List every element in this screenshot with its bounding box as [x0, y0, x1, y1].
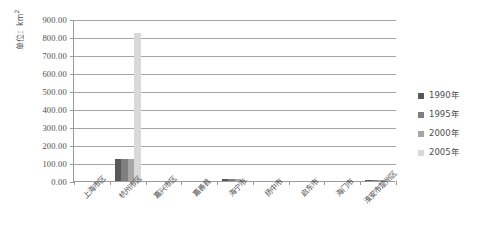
y-axis-title: 单位：km2: [12, 10, 25, 50]
bar-group: [146, 20, 182, 181]
plot-area: 900.00800.00700.00600.00500.00400.00300.…: [73, 20, 395, 182]
legend-item[interactable]: 2000年: [418, 124, 494, 143]
chart-category: 上海市区: [74, 20, 110, 181]
x-axis-tick: [181, 181, 182, 185]
chart-category: 嘉善县: [181, 20, 217, 181]
bar-group: [360, 20, 396, 181]
y-axis-tick-label: 200.00: [42, 142, 67, 151]
x-axis-tick: [396, 181, 397, 185]
y-axis-tick-label: 100.00: [42, 160, 67, 169]
chart-category: 杭州市区: [110, 20, 146, 181]
legend-swatch-icon: [418, 93, 424, 99]
x-axis-tick: [289, 181, 290, 185]
bar: [134, 33, 141, 182]
chart-category: 启东市: [289, 20, 325, 181]
chart-category: 海门市: [324, 20, 360, 181]
y-axis-tick-label: 700.00: [42, 52, 67, 61]
bar-group: [289, 20, 325, 181]
legend-item[interactable]: 2005年: [418, 143, 494, 162]
x-axis-tick: [146, 181, 147, 185]
chart-category: 淮安市楚州区: [360, 20, 396, 181]
legend-swatch-icon: [418, 131, 424, 137]
x-axis-tick: [324, 181, 325, 185]
y-axis-tick-label: 0.00: [51, 178, 67, 187]
bar-group: [181, 20, 217, 181]
bar-group: [217, 20, 253, 181]
legend-item[interactable]: 1995年: [418, 105, 494, 124]
chart-category: 扬中市: [253, 20, 289, 181]
legend-label: 1995年: [429, 110, 460, 119]
x-axis-tick: [74, 181, 75, 185]
x-axis-tick: [110, 181, 111, 185]
bar-group: [324, 20, 360, 181]
y-axis-tick-label: 400.00: [42, 106, 67, 115]
bar-group: [253, 20, 289, 181]
bar-chart: 单位：km2 900.00800.00700.00600.00500.00400…: [0, 0, 498, 242]
chart-category: 海宁市: [217, 20, 253, 181]
legend-swatch-icon: [418, 112, 424, 118]
x-axis-tick: [217, 181, 218, 185]
y-axis-title-superscript: 2: [13, 10, 20, 14]
y-axis-tick-label: 300.00: [42, 124, 67, 133]
legend-swatch-icon: [418, 150, 424, 156]
x-axis-tick: [360, 181, 361, 185]
y-axis-tick-label: 600.00: [42, 70, 67, 79]
chart-legend: 1990年1995年2000年2005年: [418, 86, 494, 162]
legend-item[interactable]: 1990年: [418, 86, 494, 105]
bar-group: [74, 20, 110, 181]
y-axis-tick-label: 800.00: [42, 34, 67, 43]
legend-label: 2005年: [429, 148, 460, 157]
x-axis-tick: [253, 181, 254, 185]
chart-category: 嘉兴市区: [146, 20, 182, 181]
legend-label: 1990年: [429, 91, 460, 100]
y-axis-tick-label: 900.00: [42, 16, 67, 25]
y-axis-title-text: 单位：km: [16, 14, 25, 50]
legend-label: 2000年: [429, 129, 460, 138]
y-axis-tick-label: 500.00: [42, 88, 67, 97]
bar-group: [110, 20, 146, 181]
